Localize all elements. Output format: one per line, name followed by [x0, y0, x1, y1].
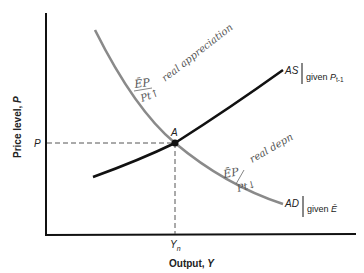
- svg-text:real appreciation: real appreciation: [159, 21, 234, 83]
- x-axis-title: Output, Y: [169, 258, 215, 269]
- handwritten-note-depreciation: ĒP Pt↓ real depn: [221, 131, 294, 194]
- ad-given-label: given Ē: [307, 204, 338, 214]
- p-tick-label: P: [34, 138, 41, 149]
- svg-text:ĒP: ĒP: [221, 165, 240, 181]
- x-axis: [45, 234, 356, 235]
- handwritten-note-appreciation: ĒP Pt↑ real appreciation: [133, 21, 235, 104]
- equilibrium-point: [172, 140, 179, 147]
- y-axis-title: Price level, P: [12, 96, 23, 158]
- svg-text:real depn: real depn: [248, 131, 295, 165]
- yn-tick-label: Yn: [170, 239, 181, 252]
- ad-label: AD: [284, 198, 299, 209]
- diagram-canvas: A P Yn Output, Y Price level, P AS given…: [0, 0, 364, 273]
- point-a-label: A: [170, 127, 178, 138]
- as-given-label: given Pt-1: [306, 72, 344, 83]
- as-label: AS: [284, 65, 299, 76]
